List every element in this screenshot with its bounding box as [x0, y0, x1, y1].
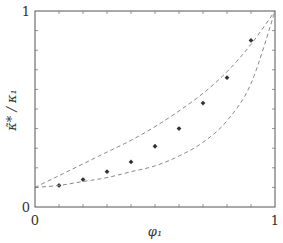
- y-tick-label: 1: [22, 4, 30, 19]
- lower-bound-curve: [35, 11, 275, 187]
- data-point-diamond: [201, 101, 206, 106]
- x-tick-label: 1: [271, 213, 279, 228]
- y-axis-label: κ̃* / κ₁: [4, 89, 19, 131]
- data-point-diamond: [177, 126, 182, 131]
- tick-labels: 0101: [22, 4, 279, 228]
- data-point-diamond: [225, 75, 230, 80]
- chart: 0101 φ₁ κ̃* / κ₁: [0, 0, 283, 243]
- data-point-diamond: [153, 144, 158, 149]
- x-axis-label: φ₁: [148, 224, 162, 239]
- y-tick-label: 0: [22, 200, 30, 215]
- series-layer: [35, 11, 275, 188]
- plot-frame: [35, 11, 275, 207]
- x-tick-label: 0: [31, 213, 39, 228]
- ticks-layer: [35, 11, 275, 207]
- data-point-diamond: [129, 160, 134, 165]
- upper-bound-curve: [35, 11, 275, 187]
- data-point-diamond: [105, 169, 110, 174]
- data-point-diamond: [249, 38, 254, 43]
